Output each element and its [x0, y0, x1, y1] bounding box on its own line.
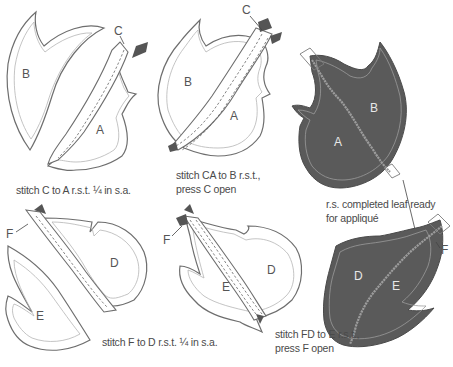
piece-b-label: B — [22, 67, 30, 81]
piece-b-label-3: B — [370, 101, 378, 115]
step2-caption: stitch CA to B r.s.t., press C open — [176, 168, 260, 196]
step3-caption: r.s. completed leaf ready for appliqué — [326, 197, 435, 225]
strip-c-label-2: C — [242, 3, 251, 17]
strip-f-label-2: F — [163, 233, 170, 247]
piece-e-label-3: E — [392, 279, 400, 293]
piece-d-label-3: D — [354, 269, 363, 283]
step1-caption: stitch C to A r.s.t. ¼ in s.a. — [16, 183, 131, 197]
piece-d-label-2: D — [267, 263, 276, 277]
piece-e-label: E — [36, 309, 44, 323]
c-tab-2 — [258, 18, 272, 32]
step5-illustration: D E F — [163, 204, 302, 332]
strip-f-label: F — [6, 227, 13, 241]
piece-b-label-2: B — [184, 75, 192, 89]
step5-caption: stitch FD to E r.s.t., press F open — [275, 327, 359, 355]
c-tab — [132, 42, 148, 58]
piece-a-label: A — [96, 123, 104, 137]
piece-a-label-3: A — [334, 135, 342, 149]
piece-a-label-2: A — [230, 109, 238, 123]
step1-illustration: B A C — [7, 12, 148, 171]
strip-c-label: C — [114, 24, 123, 38]
piece-f-label-3: F — [441, 243, 448, 257]
piece-d-label: D — [110, 256, 119, 270]
step4-caption: stitch F to D r.s.t. ¼ in s.a. — [102, 335, 217, 349]
step2-illustration: B A C — [158, 3, 282, 156]
step4-illustration: E D F — [6, 204, 147, 350]
f-tab-2 — [184, 204, 194, 214]
